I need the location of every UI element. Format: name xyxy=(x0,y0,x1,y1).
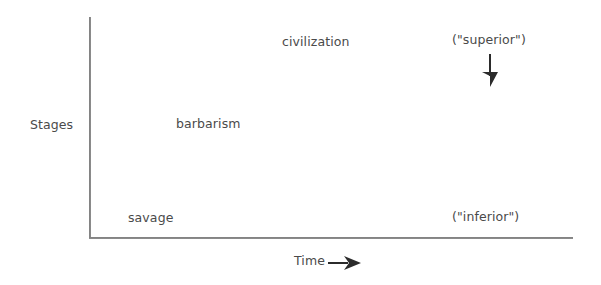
annotation-superior: ("superior") xyxy=(452,33,526,47)
diagram-canvas: Stages Time savage barbarism civilizatio… xyxy=(0,0,601,285)
annotation-inferior: ("inferior") xyxy=(452,210,519,224)
stage-label-barbarism: barbarism xyxy=(176,117,241,131)
x-axis-label: Time xyxy=(294,254,325,268)
arrow-down-icon xyxy=(478,54,502,88)
x-axis-line xyxy=(89,237,573,239)
y-axis-line xyxy=(89,17,91,239)
stage-label-civilization: civilization xyxy=(282,35,350,49)
y-axis-label: Stages xyxy=(30,118,73,132)
arrow-right-icon xyxy=(328,255,362,271)
stage-label-savage: savage xyxy=(128,211,173,225)
